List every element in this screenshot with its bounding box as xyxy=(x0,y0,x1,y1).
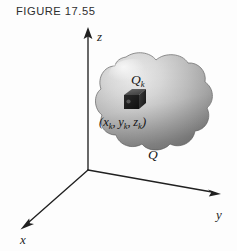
figure-container: FIGURE 17.55 xyxy=(0,0,237,251)
axis-y-arrowhead xyxy=(208,190,221,197)
cube-front-face xyxy=(124,95,139,109)
axis-x-label: x xyxy=(19,232,26,247)
cube-point-marker xyxy=(126,99,130,103)
axis-y: y xyxy=(88,170,222,222)
coord-comma-1: , xyxy=(113,115,116,129)
axis-z-label: z xyxy=(96,29,102,44)
sample-cell-label-subscript: k xyxy=(141,79,145,89)
coord-close-paren: ) xyxy=(141,115,146,129)
solid-region-label: Q xyxy=(148,147,158,162)
axis-x-line xyxy=(29,170,88,222)
axis-y-line xyxy=(88,170,212,192)
figure-diagram: z y x Q xyxy=(0,0,237,251)
sample-cell-label-q: Q xyxy=(131,72,141,87)
solid-region-q: Q xyxy=(95,53,212,162)
axis-y-label: y xyxy=(214,207,222,222)
coord-comma-2: , xyxy=(128,115,131,129)
axis-x: x xyxy=(19,170,88,247)
